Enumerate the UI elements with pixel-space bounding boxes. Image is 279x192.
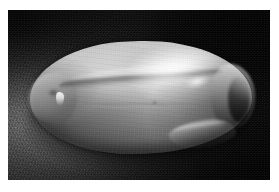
figure-caption [8, 182, 270, 192]
seed-subject [29, 38, 254, 157]
photograph-plate [8, 10, 270, 180]
page [0, 0, 279, 192]
